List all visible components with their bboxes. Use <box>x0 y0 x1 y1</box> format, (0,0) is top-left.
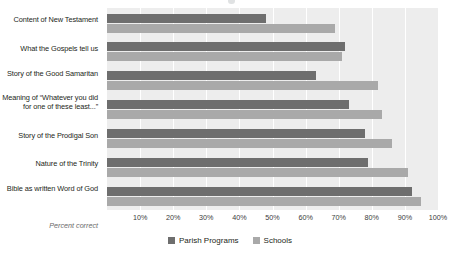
x-axis: 10%20%30%40%50%60%70%80%90%100% <box>107 211 438 225</box>
x-tick-60%: 60% <box>298 213 312 222</box>
bar-0-0 <box>107 14 266 23</box>
category-label-column: Percent correct Content of New Testament… <box>0 8 102 210</box>
x-tick-90%: 90% <box>398 213 412 222</box>
bar-group <box>107 129 438 153</box>
plot-area <box>107 8 438 210</box>
legend-swatch-icon <box>253 237 260 244</box>
page-crop-mark <box>228 0 235 4</box>
bar-group <box>107 42 438 66</box>
bar-group <box>107 100 438 124</box>
legend-item-schools[interactable]: Schools <box>253 236 292 245</box>
category-label: Content of New Testament <box>0 16 98 25</box>
category-label: Story of the Prodigal Son <box>0 132 98 141</box>
bar-1-3 <box>107 110 382 119</box>
category-label: Bible as written Word of God <box>0 185 98 194</box>
legend-label: Parish Programs <box>179 236 239 245</box>
bar-0-1 <box>107 42 345 51</box>
x-tick-40%: 40% <box>232 213 246 222</box>
bar-1-2 <box>107 81 378 90</box>
x-tick-20%: 20% <box>166 213 180 222</box>
bar-0-2 <box>107 71 316 80</box>
bar-1-1 <box>107 52 342 61</box>
bar-1-0 <box>107 24 335 33</box>
bar-1-5 <box>107 168 408 177</box>
category-label: What the Gospels tell us <box>0 45 98 54</box>
bar-0-3 <box>107 100 349 109</box>
category-label: Nature of the Trinity <box>0 160 98 169</box>
x-tick-100%: 100% <box>429 213 447 222</box>
bar-0-5 <box>107 158 368 167</box>
x-tick-10%: 10% <box>133 213 147 222</box>
percent-correct-axis-label: Percent correct <box>0 221 98 230</box>
x-tick-30%: 30% <box>199 213 213 222</box>
legend-label: Schools <box>264 236 292 245</box>
bar-group <box>107 14 438 38</box>
bar-1-4 <box>107 139 392 148</box>
bar-group <box>107 71 438 95</box>
category-label: Story of the Good Samaritan <box>0 70 98 79</box>
gridline-100 <box>438 8 439 210</box>
bar-1-6 <box>107 197 421 206</box>
category-label: Meaning of “Whatever you did for one of … <box>0 94 98 111</box>
bar-0-6 <box>107 187 412 196</box>
x-tick-50%: 50% <box>265 213 279 222</box>
x-tick-80%: 80% <box>365 213 379 222</box>
legend: Parish ProgramsSchools <box>0 236 460 245</box>
bar-group <box>107 187 438 211</box>
bar-0-4 <box>107 129 365 138</box>
x-tick-70%: 70% <box>331 213 345 222</box>
horizontal-bar-chart: Percent correct Content of New Testament… <box>0 0 460 259</box>
legend-swatch-icon <box>168 237 175 244</box>
bar-group <box>107 158 438 182</box>
legend-item-parish-programs[interactable]: Parish Programs <box>168 236 239 245</box>
